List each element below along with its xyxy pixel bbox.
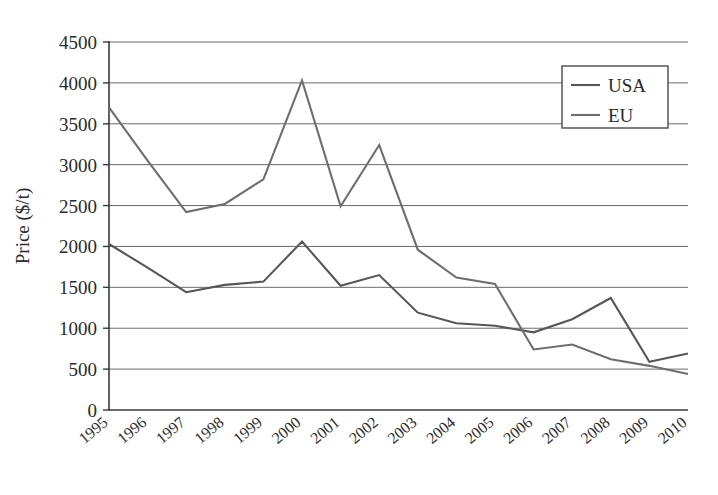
y-tick-label-4000: 4000 — [59, 73, 97, 94]
legend-label-eu[interactable]: EU — [608, 105, 634, 126]
y-tick-label-3500: 3500 — [59, 114, 97, 135]
y-tick-label-3000: 3000 — [59, 155, 97, 176]
y-tick-label-1500: 1500 — [59, 277, 97, 298]
y-tick-label-4500: 4500 — [59, 32, 97, 53]
y-tick-label-1000: 1000 — [59, 318, 97, 339]
legend-label-usa[interactable]: USA — [608, 75, 646, 96]
y-axis-title: Price ($/t) — [12, 188, 34, 265]
chart-legend[interactable]: USAEU — [562, 66, 668, 128]
line-chart: 050010001500200025003000350040004500 199… — [0, 0, 718, 495]
y-tick-label-2500: 2500 — [59, 196, 97, 217]
y-tick-label-2000: 2000 — [59, 236, 97, 257]
y-axis-title-text: Price ($/t) — [12, 188, 34, 265]
y-tick-label-500: 500 — [69, 359, 98, 380]
chart-page: 050010001500200025003000350040004500 199… — [0, 0, 718, 495]
